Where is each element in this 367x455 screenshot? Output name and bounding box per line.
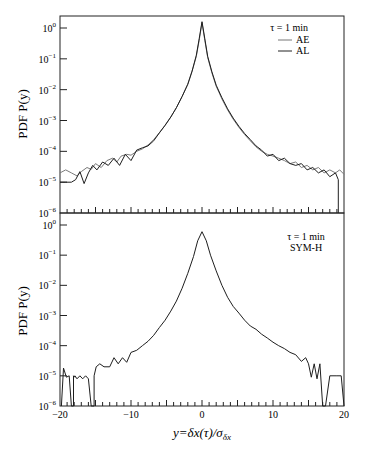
y-tick-label: 10−2 <box>39 83 57 96</box>
y-tick-label: 10−4 <box>39 339 57 352</box>
y-tick-label: 100 <box>43 21 57 34</box>
y-tick-label: 10−5 <box>39 369 57 382</box>
x-tick-label: −20 <box>52 409 68 420</box>
y-tick-label: 10−3 <box>39 309 57 322</box>
y-tick-label: 10−4 <box>39 144 57 157</box>
top-panel: 10010−110−210−310−410−510−6 τ = 1 min AE… <box>15 16 344 219</box>
bottom-panel: 10010−110−210−310−410−510−6 −20−1001020 … <box>15 213 349 442</box>
legend-label-ae: AE <box>296 34 309 45</box>
x-tick-label: 10 <box>268 409 278 420</box>
top-legend-header: τ = 1 min <box>270 22 308 33</box>
pdf-figure: 10010−110−210−310−410−510−6 τ = 1 min AE… <box>0 0 367 455</box>
x-tick-label: 0 <box>200 409 205 420</box>
top-x-ticks <box>67 207 337 213</box>
x-tick-label: −10 <box>123 409 139 420</box>
x-axis-title: y=δx(τ)/σδx <box>171 425 231 442</box>
x-tick-label: 20 <box>339 409 349 420</box>
legend-label-symh: SYM-H <box>290 242 322 253</box>
bottom-legend-header: τ = 1 min <box>287 231 325 242</box>
top-y-ticks: 10010−110−210−310−410−510−6 <box>39 21 67 219</box>
series-line-sym-h <box>61 232 344 406</box>
y-tick-label: 10−3 <box>39 114 57 127</box>
bottom-legend: τ = 1 min SYM-H <box>287 231 325 253</box>
y-tick-label: 10−2 <box>39 278 57 291</box>
y-tick-label: 10−1 <box>39 52 57 65</box>
bottom-y-axis-title: PDF P(y) <box>15 286 30 336</box>
y-tick-label: 10−5 <box>39 175 57 188</box>
y-tick-label: 100 <box>43 218 57 231</box>
top-legend: τ = 1 min AE AL <box>270 22 309 56</box>
bottom-series-lines <box>61 232 344 406</box>
legend-label-al: AL <box>296 45 309 56</box>
bottom-x-ticks: −20−1001020 <box>52 400 349 420</box>
y-tick-label: 10−1 <box>39 248 57 261</box>
top-y-axis-title: PDF P(y) <box>15 89 30 139</box>
